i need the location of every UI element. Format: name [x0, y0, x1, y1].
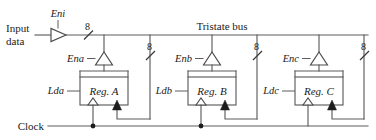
circuit-canvas: Eni Input data 8 Tristate bus Ena Enb En… — [0, 0, 376, 140]
label-reg-c-width: 8 — [361, 41, 366, 52]
label-ena: Ena — [66, 53, 84, 64]
tristate-buffer-b — [204, 52, 221, 65]
clock-junction-a — [91, 124, 96, 129]
label-ldb: Ldb — [155, 85, 172, 96]
reg-c-data-path — [332, 110, 364, 119]
reg-a-data-path — [117, 110, 150, 119]
tristate-buffer-c — [311, 52, 328, 65]
label-input-width: 8 — [85, 21, 90, 32]
label-ldc: Ldc — [262, 85, 279, 96]
label-eni: Eni — [50, 8, 66, 19]
label-reg-a: Reg. A — [88, 85, 118, 97]
label-enb: Enb — [174, 53, 192, 64]
label-reg-b-width: 8 — [254, 41, 259, 52]
label-reg-b: Reg. B — [196, 85, 227, 97]
label-clock: Clock — [18, 120, 45, 132]
label-reg-a-width: 8 — [147, 41, 152, 52]
label-tristate-bus: Tristate bus — [196, 20, 247, 32]
clock-junction-b — [199, 124, 204, 129]
tristate-buffer-a — [96, 52, 113, 65]
label-lda: Lda — [47, 85, 64, 96]
input-buffer-eni — [51, 29, 66, 42]
label-input-line2: data — [6, 35, 24, 47]
circuit-diagram: Eni Input data 8 Tristate bus Ena Enb En… — [0, 0, 376, 140]
label-reg-c: Reg. C — [303, 85, 335, 97]
reg-b-data-path — [225, 110, 257, 119]
label-enc: Enc — [282, 53, 300, 64]
label-input-line1: Input — [6, 22, 29, 34]
